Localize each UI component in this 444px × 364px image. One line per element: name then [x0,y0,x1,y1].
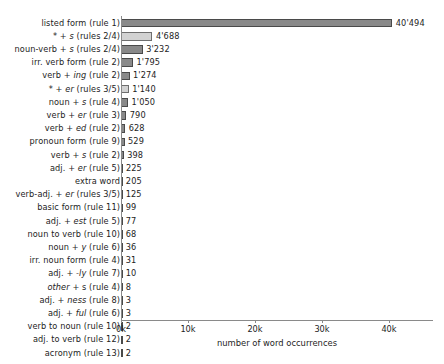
bar-value-label: 628 [129,122,145,135]
bar-row: adj. + est (rule 5)77 [0,215,444,228]
x-tick-mark [322,320,323,323]
bar-value-label: 529 [128,135,144,148]
bar[interactable] [121,19,392,28]
bar-wrapper [121,17,392,30]
x-tick-label: 0k [116,324,126,335]
bar-value-label: 125 [126,188,142,201]
bar-row: noun + y (rule 6)36 [0,241,444,254]
bar-row: verb + er (rule 3)790 [0,109,444,122]
bar-row: adj. + ness (rule 8)3 [0,294,444,307]
bar-wrapper [121,30,152,43]
bar-row: adj. + -ly (rule 7)10 [0,267,444,280]
bar-category-label: verb-adj. + er (rules 3/5) [0,188,120,201]
x-axis-line [121,320,433,321]
y-axis-line [121,16,122,320]
x-tick-label: 30k [314,324,329,335]
bar-category-label: irr. noun form (rule 4) [0,254,120,267]
x-tick-mark [121,320,122,323]
bar-chart: listed form (rule 1)40'494* + s (rules 2… [0,0,444,364]
bar[interactable] [121,58,133,67]
bar-row: * + s (rules 2/4)4'688 [0,30,444,43]
bar-category-label: verb + s (rule 2) [0,149,120,162]
bar-category-label: other + s (rule 4) [0,281,120,294]
bar-row: * + er (rules 3/5)1'140 [0,83,444,96]
bar-value-label: 205 [126,175,142,188]
bar-category-label: verb + ing (rule 2) [0,69,120,82]
bar-value-label: 36 [126,241,137,254]
bar-value-label: 3 [126,307,131,320]
bar-value-label: 2 [126,320,131,333]
bar-row: noun + s (rule 4)1'050 [0,96,444,109]
bar-value-label: 10 [126,267,137,280]
bar-row: verb-adj. + er (rules 3/5)125 [0,188,444,201]
bar-value-label: 31 [126,254,137,267]
bar-row: verb + s (rule 2)398 [0,149,444,162]
bar-value-label: 1'274 [133,69,157,82]
bar-wrapper [121,96,128,109]
bar-wrapper [121,83,129,96]
bar-value-label: 77 [126,215,137,228]
bar-value-label: 225 [126,162,142,175]
bar[interactable] [121,32,152,41]
bar-value-label: 68 [126,228,137,241]
bar-category-label: adj. to verb (rule 12) [0,333,120,346]
bar-value-label: 8 [126,281,131,294]
bar-category-label: verb to noun (rule 10) [0,320,120,333]
bar-category-label: basic form (rule 11) [0,201,120,214]
bar-value-label: 40'494 [396,17,425,30]
bar-category-label: verb + er (rule 3) [0,109,120,122]
bar-category-label: noun-verb + s (rules 2/4) [0,43,120,56]
x-tick-label: 10k [180,324,195,335]
bar-row: verb + ed (rule 2)628 [0,122,444,135]
bar-category-label: noun to verb (rule 10) [0,228,120,241]
bar-row: irr. verb form (rule 2)1'795 [0,56,444,69]
x-tick-label: 20k [247,324,262,335]
bar-row: noun-verb + s (rules 2/4)3'232 [0,43,444,56]
bar-value-label: 1'795 [137,56,161,69]
bar-category-label: extra word [0,175,120,188]
bar-row: verb + ing (rule 2)1'274 [0,69,444,82]
bar-category-label: pronoun form (rule 9) [0,135,120,148]
bar-row: other + s (rule 4)8 [0,281,444,294]
bar-row: extra word205 [0,175,444,188]
bar-row: adj. + ful (rule 6)3 [0,307,444,320]
bar-row: adj. + er (rule 5)225 [0,162,444,175]
bar[interactable] [121,45,143,54]
bar-wrapper [121,56,133,69]
bar-category-label: adj. + ful (rule 6) [0,307,120,320]
bar-category-label: verb + ed (rule 2) [0,122,120,135]
bar-value-label: 1'140 [132,83,156,96]
bar-row: listed form (rule 1)40'494 [0,17,444,30]
bar-wrapper [121,69,130,82]
bar-category-label: noun + y (rule 6) [0,241,120,254]
plot-area: listed form (rule 1)40'494* + s (rules 2… [0,0,444,364]
bar[interactable] [121,98,128,107]
bar-category-label: * + s (rules 2/4) [0,30,120,43]
bar-category-label: adj. + est (rule 5) [0,215,120,228]
bar-row: verb to noun (rule 10)2 [0,320,444,333]
bar[interactable] [121,349,123,358]
x-tick-mark [188,320,189,323]
bar-row: irr. noun form (rule 4)31 [0,254,444,267]
bar-category-label: listed form (rule 1) [0,17,120,30]
bar-category-label: noun + s (rule 4) [0,96,120,109]
bar-row: noun to verb (rule 10)68 [0,228,444,241]
bar-value-label: 99 [126,201,137,214]
bar-category-label: * + er (rules 3/5) [0,83,120,96]
bar-category-label: adj. + -ly (rule 7) [0,267,120,280]
bar[interactable] [121,85,129,94]
bar-value-label: 3'232 [146,43,170,56]
x-tick-mark [389,320,390,323]
bar-value-label: 398 [127,149,143,162]
bar-value-label: 3 [126,294,131,307]
bar-category-label: irr. verb form (rule 2) [0,56,120,69]
bar-category-label: acronym (rule 13) [0,347,120,360]
bar[interactable] [121,72,130,81]
bar-value-label: 1'050 [132,96,156,109]
bar-row: pronoun form (rule 9)529 [0,135,444,148]
x-tick-mark [255,320,256,323]
bar-wrapper [121,43,143,56]
bar-value-label: 4'688 [156,30,180,43]
bar-row: basic form (rule 11)99 [0,201,444,214]
bar-value-label: 790 [130,109,146,122]
